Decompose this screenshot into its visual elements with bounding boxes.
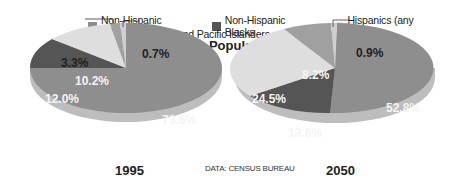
label-1995-native: 0.7% (142, 47, 169, 61)
year-label-2050: 2050 (326, 163, 355, 178)
label-1995-hispanics: 10.2% (75, 74, 109, 88)
label-2050-blacks: 13.6% (288, 126, 322, 140)
label-2050-hispanics: 24.5% (252, 92, 286, 106)
label-2050-native: 0.9% (356, 46, 383, 60)
label-2050-whites: 52.8% (386, 101, 420, 115)
pie-1995 (30, 19, 222, 122)
data-source: DATA: CENSUS BUREAU (205, 164, 295, 173)
year-label-1995: 1995 (115, 163, 144, 178)
label-1995-asians: 3.3% (61, 56, 88, 70)
label-2050-asians: 8.2% (302, 68, 329, 82)
label-1995-whites: 73.6% (162, 113, 196, 127)
label-1995-blacks: 12.0% (45, 92, 79, 106)
